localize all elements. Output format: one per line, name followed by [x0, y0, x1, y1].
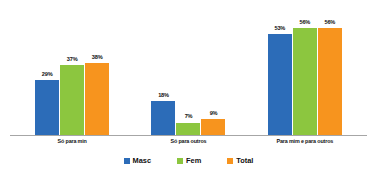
- bar-masc-so-para-min[interactable]: [35, 80, 59, 136]
- bar-slot-fem-1: 37%: [60, 0, 84, 136]
- bar-slot-total-1: 38%: [85, 0, 109, 136]
- bar-slot-masc-1: 29%: [35, 0, 59, 136]
- bar-slot-masc-3: 53%: [268, 0, 292, 136]
- legend-swatch-fem: [177, 158, 183, 164]
- category-axis-line: [10, 135, 367, 136]
- category-label-so-para-min: Só para min: [35, 139, 110, 144]
- bar-group-so-para-min: 29% 37% 38%: [35, 0, 109, 136]
- bar-fem-so-para-outros[interactable]: [176, 123, 200, 137]
- bar-masc-so-para-outros[interactable]: [151, 101, 175, 136]
- legend-label-total: Total: [236, 157, 253, 164]
- bar-slot-fem-2: 7%: [176, 0, 200, 136]
- legend-label-fem: Fem: [186, 157, 201, 164]
- legend-item-fem[interactable]: Fem: [177, 157, 201, 164]
- bar-slot-total-2: 9%: [201, 0, 225, 136]
- bar-value-label: 56%: [300, 20, 311, 26]
- bar-total-para-mim-e-para-outros[interactable]: [318, 28, 342, 136]
- legend-item-masc[interactable]: Masc: [124, 157, 152, 164]
- bar-value-label: 7%: [185, 114, 193, 120]
- bar-value-label: 9%: [210, 111, 218, 117]
- bar-value-label: 29%: [42, 72, 53, 78]
- category-label-para-mim-e-para-outros: Para mim e para outros: [267, 139, 342, 144]
- legend-swatch-total: [227, 158, 233, 164]
- bar-value-label: 53%: [275, 26, 286, 32]
- bar-chart: 29% 37% 38% 18% 7%: [0, 0, 377, 183]
- bar-value-label: 18%: [158, 93, 169, 99]
- bar-slot-total-3: 56%: [318, 0, 342, 136]
- bar-group-so-para-outros: 18% 7% 9%: [151, 0, 225, 136]
- category-label-so-para-outros: Só para outros: [151, 139, 226, 144]
- legend-label-masc: Masc: [133, 157, 152, 164]
- bar-value-label: 37%: [67, 57, 78, 63]
- category-labels: Só para min Só para outros Para mim e pa…: [14, 139, 363, 144]
- bar-total-so-para-min[interactable]: [85, 63, 109, 136]
- bar-groups: 29% 37% 38% 18% 7%: [14, 0, 363, 136]
- bar-value-label: 56%: [325, 20, 336, 26]
- plot-area: 29% 37% 38% 18% 7%: [0, 0, 377, 136]
- bar-total-so-para-outros[interactable]: [201, 119, 225, 136]
- chart-legend: Masc Fem Total: [0, 157, 377, 164]
- bar-value-label: 38%: [92, 55, 103, 61]
- bar-slot-fem-3: 56%: [293, 0, 317, 136]
- bar-slot-masc-2: 18%: [151, 0, 175, 136]
- legend-item-total[interactable]: Total: [227, 157, 253, 164]
- legend-swatch-masc: [124, 158, 130, 164]
- bar-fem-so-para-min[interactable]: [60, 65, 84, 136]
- bar-group-para-mim-e-para-outros: 53% 56% 56%: [268, 0, 342, 136]
- bar-fem-para-mim-e-para-outros[interactable]: [293, 28, 317, 136]
- bar-masc-para-mim-e-para-outros[interactable]: [268, 34, 292, 136]
